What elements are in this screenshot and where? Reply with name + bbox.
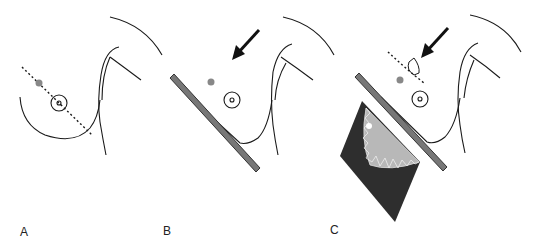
panel-label-c: C: [330, 223, 339, 237]
arm-curve: [99, 47, 119, 155]
shoulder-arc: [470, 15, 521, 52]
lesion: [208, 79, 215, 86]
nipple-inner: [418, 97, 422, 101]
nipple-inner: [230, 98, 234, 102]
arm-inner: [281, 57, 313, 80]
marker-dot: [366, 123, 372, 129]
nipple-outer: [51, 95, 67, 111]
shoulder-arc: [283, 17, 334, 55]
panel-label-b: B: [163, 224, 171, 238]
panel-c: [340, 15, 521, 222]
nipple-inner: [57, 101, 61, 105]
panel-a: [20, 17, 162, 155]
arm-inner: [470, 55, 500, 78]
shoulder-arc: [110, 17, 162, 55]
lesion: [36, 80, 43, 87]
breast-contour: [20, 97, 100, 139]
panel-b: [170, 17, 334, 172]
panel-label-a: A: [20, 225, 28, 239]
nipple-outer: [224, 92, 240, 108]
dotted-line: [22, 67, 92, 135]
arm-inner: [110, 57, 141, 80]
nipple-outer: [412, 91, 428, 107]
skin-marker: [408, 58, 419, 75]
compression-paddle: [170, 74, 260, 172]
figure: A B C: [0, 0, 539, 245]
image-detector: [340, 101, 420, 222]
diagram-canvas: [0, 0, 539, 245]
lesion: [397, 77, 404, 84]
arm-inner2: [275, 63, 286, 100]
arrow-icon: [421, 28, 448, 58]
arm-inner2: [464, 60, 474, 98]
arrow-icon: [232, 30, 259, 60]
arm-curve: [458, 43, 478, 153]
